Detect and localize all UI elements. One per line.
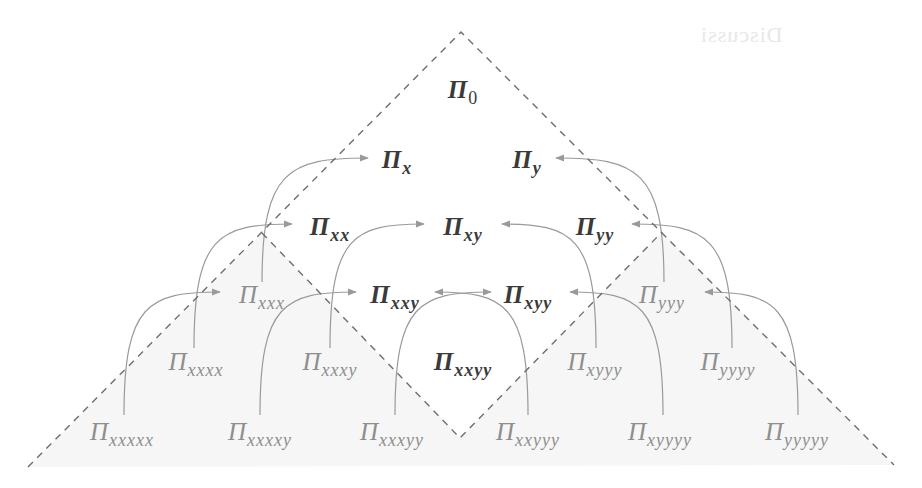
node-symbol: Π bbox=[496, 418, 514, 445]
node-pi-yyy: Πyyy bbox=[639, 282, 685, 312]
node-symbol: Π bbox=[448, 76, 467, 103]
node-symbol: Π bbox=[700, 348, 718, 375]
node-subscript: xyyy bbox=[587, 360, 623, 380]
node-pi-xxyyy: Πxxyyy bbox=[496, 419, 560, 449]
node-pi-xxxxy: Πxxxxy bbox=[228, 419, 292, 449]
node-pi-xxx: Πxxx bbox=[239, 282, 285, 312]
node-subscript: xyyyy bbox=[647, 430, 692, 450]
node-pi-xyyyy: Πxyyyy bbox=[628, 419, 692, 449]
node-pi-0: Π0 bbox=[448, 77, 478, 107]
node-symbol: Π bbox=[567, 348, 585, 375]
node-symbol: Π bbox=[628, 418, 646, 445]
pi-lattice-diagram bbox=[0, 0, 922, 488]
node-pi-xx: Πxx bbox=[310, 214, 350, 244]
node-symbol: Π bbox=[90, 418, 108, 445]
bleed-through-text: Discussi bbox=[700, 22, 783, 48]
node-subscript: xx bbox=[330, 225, 350, 245]
node-subscript: xxxxx bbox=[109, 430, 154, 450]
node-subscript: xyy bbox=[524, 293, 552, 313]
node-pi-xxxy: Πxxxy bbox=[302, 349, 357, 379]
node-symbol: Π bbox=[239, 281, 257, 308]
node-symbol: Π bbox=[168, 348, 186, 375]
node-symbol: Π bbox=[302, 348, 320, 375]
node-subscript: xxyyy bbox=[515, 430, 560, 450]
node-subscript: yyyy bbox=[720, 360, 756, 380]
node-pi-y: Πy bbox=[512, 147, 541, 177]
node-pi-x: Πx bbox=[382, 147, 412, 177]
node-pi-yyyyy: Πyyyyy bbox=[765, 419, 829, 449]
node-symbol: Π bbox=[310, 213, 329, 240]
node-subscript: xxxx bbox=[188, 360, 224, 380]
node-pi-yyyy: Πyyyy bbox=[700, 349, 755, 379]
node-pi-xxxyy: Πxxxyy bbox=[360, 419, 424, 449]
node-symbol: Π bbox=[639, 281, 657, 308]
node-subscript: xy bbox=[464, 225, 483, 245]
node-symbol: Π bbox=[504, 281, 523, 308]
node-pi-xxxx: Πxxxx bbox=[168, 349, 223, 379]
node-subscript: xxyy bbox=[454, 360, 492, 380]
node-pi-xxxxx: Πxxxxx bbox=[90, 419, 154, 449]
node-subscript: y bbox=[533, 158, 542, 178]
node-symbol: Π bbox=[228, 418, 246, 445]
node-subscript: xxxyy bbox=[379, 430, 424, 450]
node-subscript: xxy bbox=[391, 293, 420, 313]
node-symbol: Π bbox=[443, 213, 462, 240]
node-symbol: Π bbox=[512, 146, 531, 173]
node-pi-yy: Πyy bbox=[576, 214, 614, 244]
node-pi-xyyy: Πxyyy bbox=[567, 349, 622, 379]
node-pi-xy: Πxy bbox=[443, 214, 482, 244]
node-pi-xyy: Πxyy bbox=[504, 282, 552, 312]
node-subscript: xxxy bbox=[322, 360, 358, 380]
node-symbol: Π bbox=[434, 348, 453, 375]
node-subscript: x bbox=[402, 158, 412, 178]
node-subscript: 0 bbox=[468, 88, 478, 108]
node-subscript: yy bbox=[596, 225, 614, 245]
node-symbol: Π bbox=[765, 418, 783, 445]
node-symbol: Π bbox=[360, 418, 378, 445]
node-pi-xxyy: Πxxyy bbox=[434, 349, 492, 379]
node-symbol: Π bbox=[382, 146, 401, 173]
node-subscript: xxx bbox=[258, 293, 285, 313]
node-symbol: Π bbox=[576, 213, 595, 240]
node-subscript: yyy bbox=[658, 293, 685, 313]
node-subscript: yyyyy bbox=[784, 430, 829, 450]
node-symbol: Π bbox=[370, 281, 389, 308]
node-subscript: xxxxy bbox=[247, 430, 292, 450]
node-pi-xxy: Πxxy bbox=[370, 282, 419, 312]
